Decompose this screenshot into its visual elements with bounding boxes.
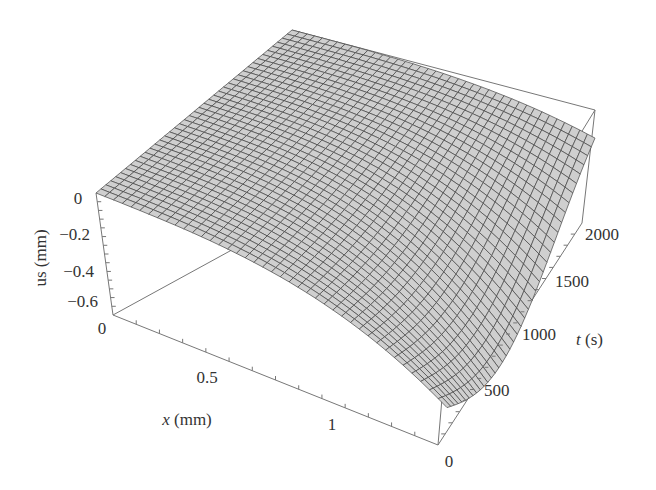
z-base-tick: 0	[98, 319, 107, 338]
surface-mesh	[96, 30, 595, 408]
t-tick-1000: 1000	[522, 325, 556, 344]
t-tick-0: 0	[445, 452, 454, 471]
t-tick-500: 500	[484, 381, 510, 400]
z-tick-3: −0.6	[67, 292, 98, 311]
z-axis-label: us (mm)	[31, 229, 50, 286]
t-axis-label: t (s)	[576, 330, 603, 349]
t-tick-2000: 2000	[585, 225, 619, 244]
x-axis-label: x (mm)	[161, 410, 212, 429]
surface-plot: 0 −0.2 −0.4 −0.6 0 us (mm) 0.5 1 x (mm) …	[0, 0, 656, 490]
z-axis: 0 −0.2 −0.4 −0.6 0 us (mm)	[31, 189, 106, 338]
z-tick-0: 0	[74, 189, 83, 208]
t-tick-1500: 1500	[555, 272, 589, 291]
x-tick-1: 1	[328, 415, 337, 434]
x-tick-0.5: 0.5	[196, 368, 217, 387]
z-tick-1: −0.2	[59, 225, 90, 244]
z-tick-2: −0.4	[63, 262, 94, 281]
x-axis: 0.5 1 x (mm)	[161, 368, 336, 434]
